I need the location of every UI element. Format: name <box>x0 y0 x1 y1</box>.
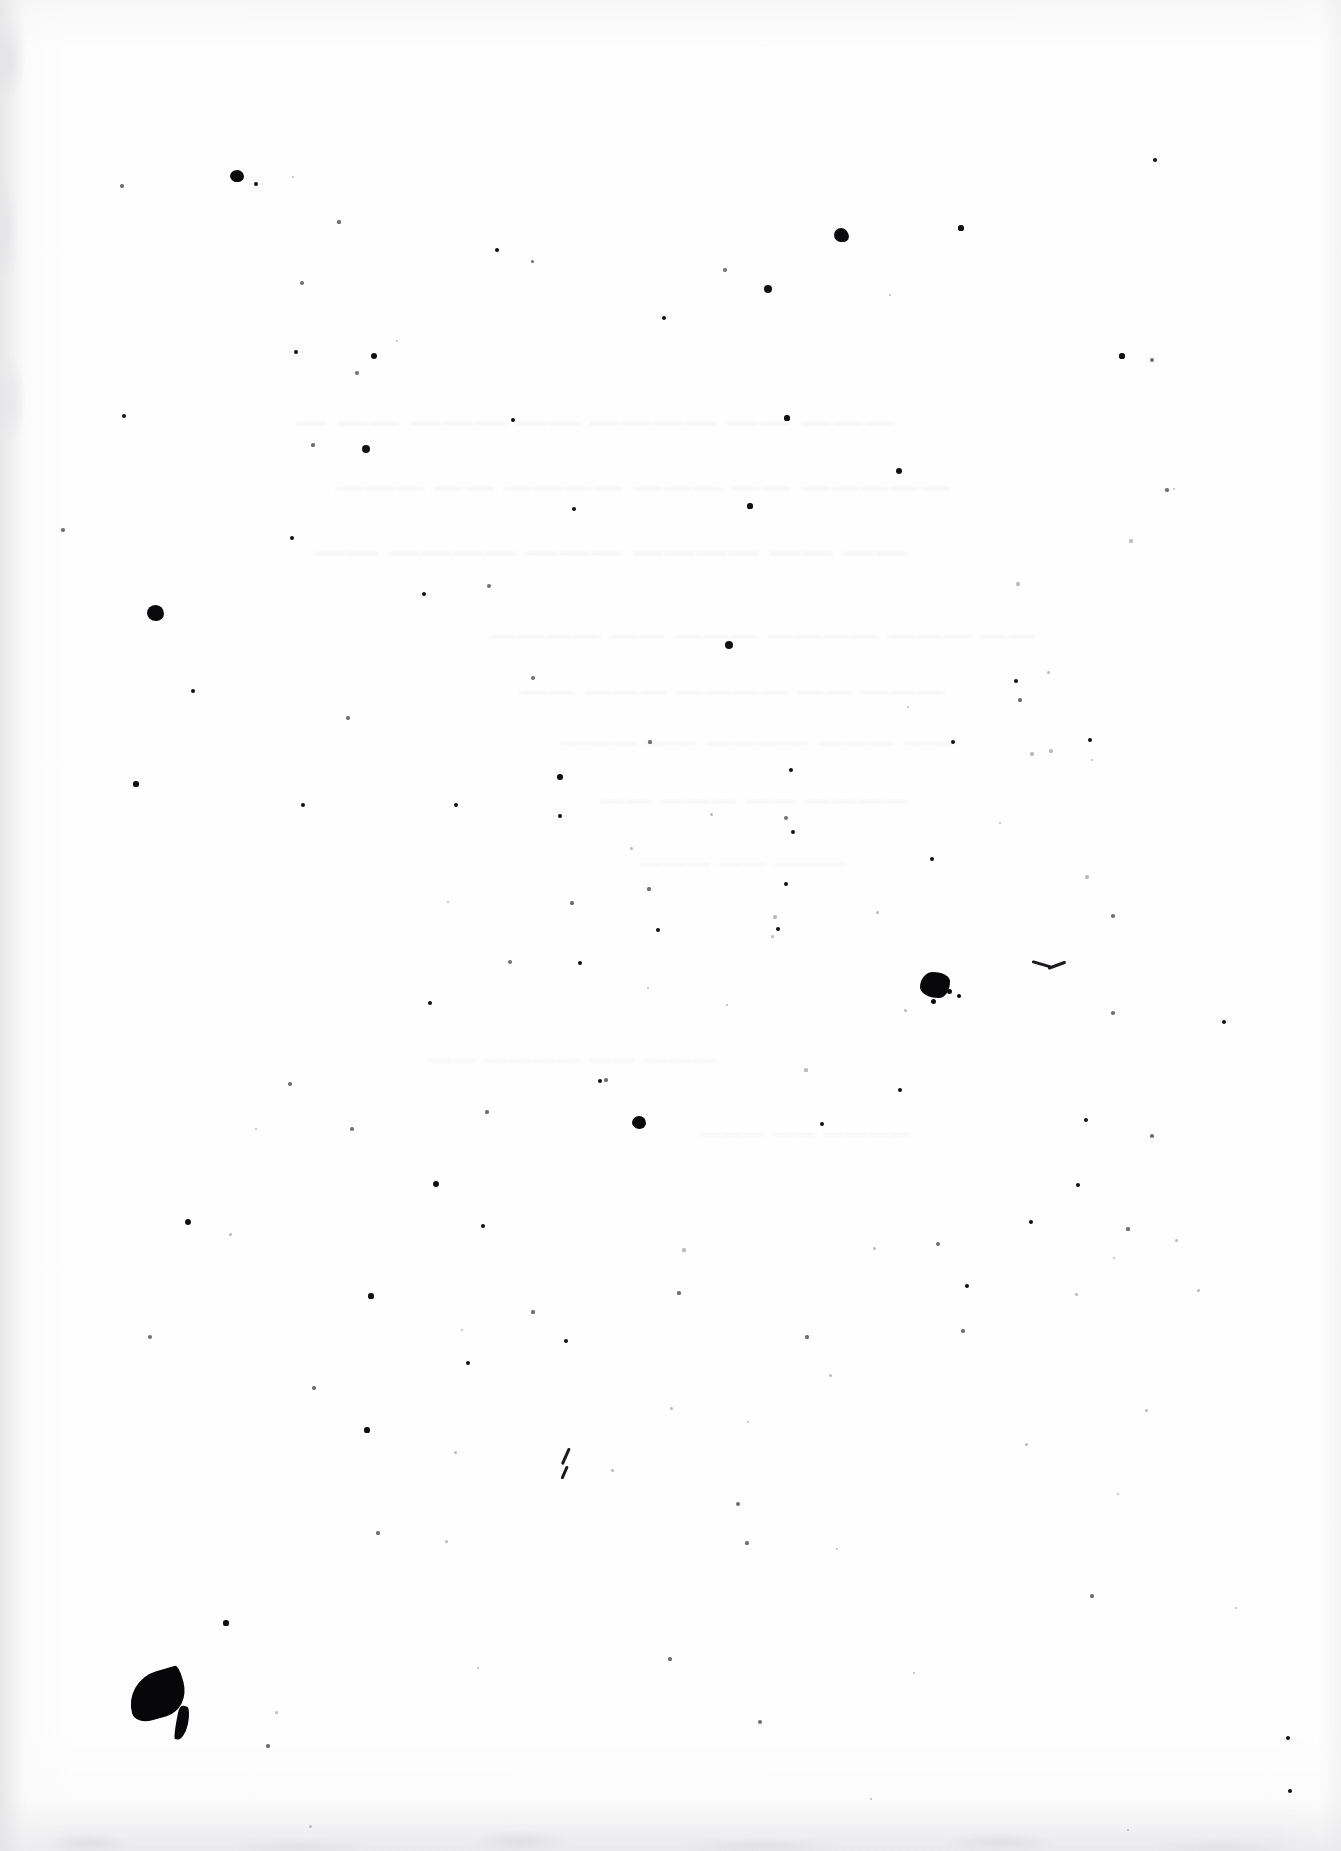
scanned-page: — —— ——— —— ———— —— —————— —— ———— ——— —… <box>0 0 1341 1851</box>
bottom-edge-scan-mottle <box>0 1791 1341 1851</box>
left-edge-scan-shadow <box>0 0 40 520</box>
paper-background <box>0 0 1341 1851</box>
